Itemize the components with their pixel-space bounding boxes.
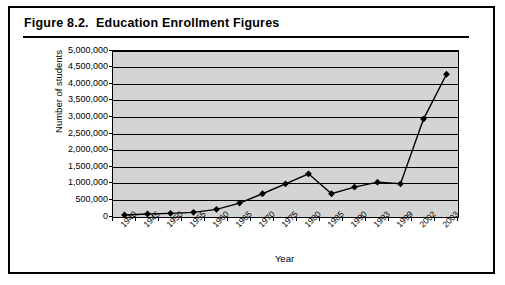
gridline [113,200,458,201]
y-axis-tick-label: 3,000,000 [68,112,108,121]
y-axis-tick-mark [109,133,113,134]
y-axis-tick-label: 1,500,000 [68,162,108,171]
data-point-marker [259,190,266,197]
data-point-marker [374,179,381,186]
data-point-marker [443,71,450,78]
gridline [113,117,458,118]
y-axis-tick-mark [109,83,113,84]
x-axis-title: Year [112,253,457,264]
y-axis-tick-label: 0 [103,212,108,221]
plot-area [112,50,459,218]
enrollment-line-chart: Number of students 0500,0001,000,0001,50… [10,8,497,276]
y-axis-tick-label: 500,000 [75,195,108,204]
x-axis-tick-mark [112,217,113,221]
y-axis-tick-mark [109,149,113,150]
figure-container: Figure 8.2. Education Enrollment Figures… [8,6,495,274]
y-axis-tick-mark [109,116,113,117]
data-point-marker [351,184,358,191]
y-axis-tick-label: 3,500,000 [68,95,108,104]
y-axis-tick-mark [109,166,113,167]
y-axis-tick-mark [109,182,113,183]
y-axis-tick-mark [109,99,113,100]
y-axis-tick-mark [109,66,113,67]
y-axis-tick-labels: 0500,0001,000,0001,500,0002,000,0002,500… [30,50,108,216]
y-axis-tick-label: 5,000,000 [68,46,108,55]
gridline [113,183,458,184]
gridline [113,51,458,52]
gridline [113,167,458,168]
y-axis-tick-label: 4,000,000 [68,79,108,88]
y-axis-tick-mark [109,50,113,51]
y-axis-tick-label: 1,000,000 [68,178,108,187]
y-axis-tick-label: 2,000,000 [68,145,108,154]
y-axis-tick-mark [109,216,113,217]
y-axis-tick-label: 4,500,000 [68,62,108,71]
y-axis-tick-mark [109,199,113,200]
series-polyline [125,74,447,215]
gridline [113,84,458,85]
y-axis-tick-label: 2,500,000 [68,129,108,138]
gridline [113,150,458,151]
gridline [113,134,458,135]
gridline [113,100,458,101]
gridline [113,67,458,68]
